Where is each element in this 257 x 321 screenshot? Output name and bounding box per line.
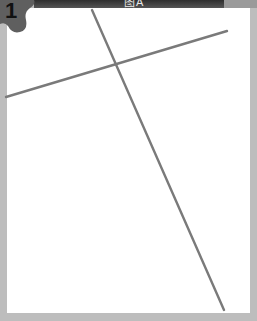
number-badge: 1 xyxy=(0,0,36,33)
badge-number: 1 xyxy=(5,0,17,24)
crossing-lines xyxy=(0,0,257,321)
line-b xyxy=(92,10,224,310)
